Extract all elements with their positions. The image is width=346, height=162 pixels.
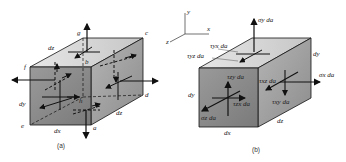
- coordinate-axes: y x z: [165, 8, 211, 46]
- stress-element-figure: g c b f h d e a dz dy dx dz (a) y x z: [0, 0, 346, 162]
- figure-b-cube: σy da τyx da τyz da τzy da τzx da σz da …: [187, 16, 335, 154]
- dim-dz-top-a: dz: [48, 44, 55, 52]
- label-tau-zx: τzx da: [233, 100, 251, 108]
- label-sigma-y: σy da: [258, 16, 274, 24]
- dim-dy-front-b: dy: [188, 91, 196, 99]
- axis-y-label: y: [186, 8, 191, 16]
- label-tau-yz: τyz da: [187, 52, 205, 60]
- label-sigma-x: σx da: [319, 71, 335, 79]
- label-sigma-z: σz da: [201, 114, 216, 122]
- axis-x-label: x: [206, 25, 211, 33]
- vertex-a: a: [93, 124, 97, 132]
- vertex-d: d: [145, 91, 149, 99]
- dim-dx-b: dx: [224, 129, 232, 137]
- label-tau-xy: τxy da: [272, 98, 290, 106]
- label-tau-yx: τyx da: [210, 42, 228, 50]
- label-tau-xz: τxz da: [259, 77, 277, 85]
- caption-a: (a): [57, 142, 65, 150]
- dim-dy-a: dy: [19, 100, 27, 108]
- label-tau-zy: τzy da: [227, 73, 245, 81]
- vertex-c: c: [145, 29, 149, 37]
- vertex-f: f: [24, 63, 27, 71]
- figure-a-cube: g c b f h d e a dz dy dx dz (a): [12, 24, 158, 150]
- vertex-b: b: [85, 58, 89, 66]
- dim-dx-a: dx: [54, 127, 62, 135]
- dim-dz-b: dz: [277, 117, 284, 125]
- vertex-h: h: [79, 97, 83, 105]
- dim-dz-side-a: dz: [116, 109, 123, 117]
- caption-b: (b): [252, 146, 260, 154]
- vertex-e: e: [21, 122, 24, 130]
- vertex-g: g: [77, 29, 81, 37]
- axis-z-label: z: [165, 38, 169, 46]
- dim-dy-side-b: dy: [313, 50, 321, 58]
